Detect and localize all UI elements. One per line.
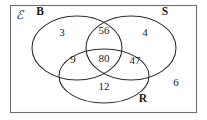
region-value-b-and-r: 9 — [70, 53, 76, 65]
region-value-b-only: 3 — [59, 26, 65, 38]
set-label-b: B — [36, 5, 44, 17]
region-value-b-s-r: 80 — [99, 52, 111, 64]
set-label-s: S — [162, 5, 168, 17]
set-label-r: R — [139, 92, 148, 104]
venn-diagram-figure: ℰ B S R 3 56 4 9 80 47 12 6 — [0, 0, 207, 120]
region-value-s-and-r: 47 — [130, 54, 142, 66]
region-value-b-and-s: 56 — [99, 24, 111, 36]
region-value-r-only: 12 — [99, 80, 110, 92]
region-value-s-only: 4 — [142, 26, 148, 38]
venn-diagram-canvas: ℰ B S R 3 56 4 9 80 47 12 6 — [0, 0, 207, 120]
region-value-outside: 6 — [173, 76, 179, 88]
